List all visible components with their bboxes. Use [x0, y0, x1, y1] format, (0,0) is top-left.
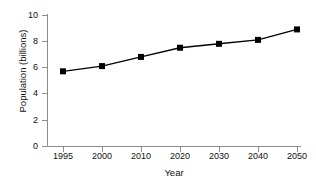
data-point-marker: [138, 54, 144, 60]
data-point-marker: [294, 26, 300, 32]
data-point-marker: [255, 37, 261, 43]
y-axis-title: Population (billions): [18, 1, 28, 141]
series-layer: [0, 0, 316, 188]
data-point-marker: [177, 45, 183, 51]
data-point-marker: [60, 68, 66, 74]
population-line-chart: 0 2 4 6 8 10 1995 2000 2010 2020 2030 20…: [0, 0, 316, 188]
data-point-marker: [216, 41, 222, 47]
x-axis-title: Year: [47, 168, 301, 178]
data-point-marker: [99, 63, 105, 69]
